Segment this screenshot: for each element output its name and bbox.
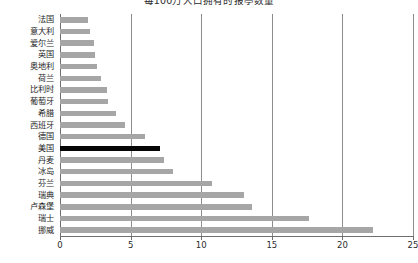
x-tick-25: 25 — [408, 240, 418, 250]
x-tickmark-0 — [60, 236, 61, 240]
y-label-英国: 英国 — [38, 50, 54, 59]
x-tickmark-5 — [131, 236, 132, 240]
y-label-爱尔兰: 爱尔兰 — [30, 39, 54, 48]
y-label-挪威: 挪威 — [38, 226, 54, 235]
bar-row — [60, 122, 413, 128]
x-tick-15: 15 — [266, 240, 277, 250]
chart-title: 每100万人口拥有的报亭数量 — [0, 0, 418, 7]
bar-挪威 — [60, 227, 373, 233]
bar-荷兰 — [60, 76, 101, 82]
x-tick-20: 20 — [337, 240, 348, 250]
bar-row — [60, 216, 413, 222]
x-tick-10: 10 — [196, 240, 207, 250]
bar-row — [60, 192, 413, 198]
x-axis-line — [60, 236, 413, 237]
bar-series — [60, 14, 413, 236]
y-axis-category-labels: 法国意大利爱尔兰英国奥地利荷兰比利时葡萄牙希腊西班牙德国美国丹麦冰岛芬兰瑞典卢森… — [0, 14, 57, 236]
y-label-法国: 法国 — [38, 15, 54, 24]
x-tickmark-20 — [342, 236, 343, 240]
y-label-意大利: 意大利 — [30, 27, 54, 36]
plot-area — [60, 14, 413, 236]
bar-row — [60, 134, 413, 140]
x-tickmark-15 — [272, 236, 273, 240]
bar-row — [60, 17, 413, 23]
x-tick-0: 0 — [57, 240, 62, 250]
bar-row — [60, 111, 413, 117]
bar-卢森堡 — [60, 204, 252, 210]
bar-row — [60, 99, 413, 105]
bar-意大利 — [60, 29, 90, 35]
y-label-奥地利: 奥地利 — [30, 62, 54, 71]
bar-瑞典 — [60, 192, 244, 198]
bar-法国 — [60, 17, 88, 23]
y-label-比利时: 比利时 — [30, 85, 54, 94]
bar-瑞士 — [60, 216, 309, 222]
x-tickmark-25 — [413, 236, 414, 240]
x-tick-5: 5 — [128, 240, 133, 250]
y-label-葡萄牙: 葡萄牙 — [30, 97, 54, 106]
bar-row — [60, 181, 413, 187]
bar-chart: 每100万人口拥有的报亭数量 法国意大利爱尔兰英国奥地利荷兰比利时葡萄牙希腊西班… — [0, 0, 418, 263]
y-label-德国: 德国 — [38, 132, 54, 141]
bar-奥地利 — [60, 64, 97, 70]
y-label-希腊: 希腊 — [38, 109, 54, 118]
bar-希腊 — [60, 111, 116, 117]
gridline-25 — [413, 14, 414, 236]
bar-row — [60, 40, 413, 46]
bar-row — [60, 64, 413, 70]
y-label-西班牙: 西班牙 — [30, 121, 54, 130]
y-label-荷兰: 荷兰 — [38, 74, 54, 83]
bar-爱尔兰 — [60, 40, 94, 46]
bar-西班牙 — [60, 122, 125, 128]
bar-德国 — [60, 134, 145, 140]
bar-丹麦 — [60, 157, 164, 163]
bar-row — [60, 204, 413, 210]
bar-比利时 — [60, 87, 107, 93]
y-label-瑞士: 瑞士 — [38, 214, 54, 223]
bar-芬兰 — [60, 181, 212, 187]
bar-row — [60, 29, 413, 35]
bar-row — [60, 52, 413, 58]
bar-row — [60, 87, 413, 93]
bar-row — [60, 227, 413, 233]
bar-row — [60, 146, 413, 152]
bar-row — [60, 76, 413, 82]
bar-row — [60, 157, 413, 163]
x-tickmark-10 — [201, 236, 202, 240]
x-axis-tick-labels: 0510152025 — [0, 240, 418, 256]
y-label-冰岛: 冰岛 — [38, 167, 54, 176]
bar-葡萄牙 — [60, 99, 108, 105]
bar-row — [60, 169, 413, 175]
y-label-美国: 美国 — [38, 144, 54, 153]
bar-美国 — [60, 146, 160, 152]
y-label-丹麦: 丹麦 — [38, 156, 54, 165]
bar-英国 — [60, 52, 95, 58]
y-label-卢森堡: 卢森堡 — [30, 202, 54, 211]
bar-冰岛 — [60, 169, 173, 175]
y-label-瑞典: 瑞典 — [38, 191, 54, 200]
y-label-芬兰: 芬兰 — [38, 179, 54, 188]
